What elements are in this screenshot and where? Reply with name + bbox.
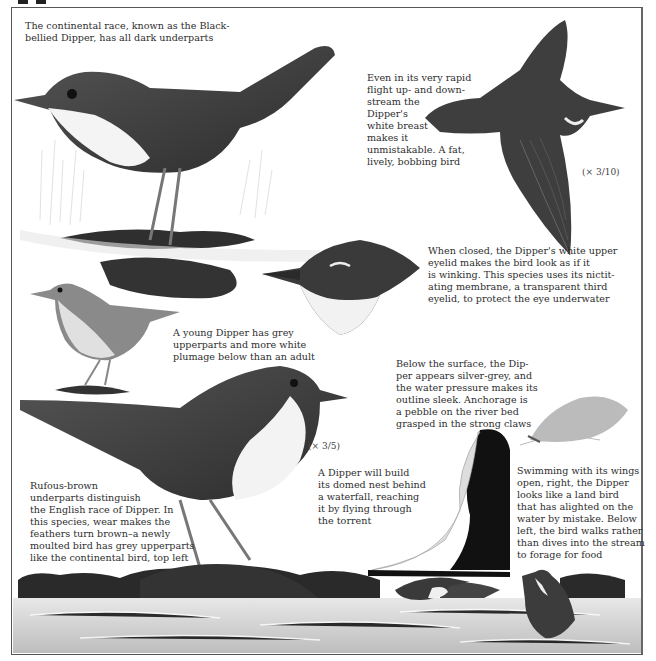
caption-line: grasped in the strong claws [396, 418, 546, 430]
caption-line: this species, wear makes the [30, 516, 195, 528]
caption-line: water by mistake. Below [517, 513, 647, 525]
black-bellied-dipper-illustration [14, 46, 335, 298]
caption-young-dipper: A young Dipper has grey upperparts and m… [173, 327, 323, 363]
caption-line: underparts distinguish [30, 492, 195, 504]
caption-line: Below the surface, the Dip- [396, 358, 546, 370]
caption-line: the water pressure makes its [396, 382, 546, 394]
caption-line: The continental race, known as the Black… [25, 20, 255, 32]
caption-flight: Even in its very rapid flight up- and do… [367, 72, 477, 168]
caption-underwater: Below the surface, the Dip- per appears … [396, 358, 546, 430]
caption-line: a waterfall, reaching [318, 491, 438, 503]
caption-line: lively, bobbing bird [367, 156, 477, 168]
caption-line: like the continental bird, top left [30, 552, 195, 564]
caption-continental-race: The continental race, known as the Black… [25, 20, 255, 44]
caption-waterfall-nest: A Dipper will build its domed nest behin… [318, 467, 438, 527]
caption-line: outline sleek. Anchorage is [396, 394, 546, 406]
caption-line: When closed, the Dipper's white upper [428, 245, 648, 257]
caption-line: makes it [367, 132, 477, 144]
caption-line: eyelid makes the bird look as if it [428, 257, 648, 269]
caption-line: plumage below than an adult [173, 351, 323, 363]
caption-line: its domed nest behind [318, 479, 438, 491]
caption-line: Rufous-brown [30, 480, 195, 492]
caption-line: open, right, the Dipper [517, 477, 647, 489]
caption-line: Swimming with its wings [517, 465, 647, 477]
caption-line: bellied Dipper, has all dark underparts [25, 32, 255, 44]
caption-line: per appears silver-grey, and [396, 370, 546, 382]
caption-line: unmistakable. A fat, [367, 144, 477, 156]
caption-line: moulted bird has grey upperparts [30, 540, 195, 552]
scale-label-main: (× 3/5) [308, 441, 340, 451]
caption-line: upperparts and more white [173, 339, 323, 351]
caption-line: the torrent [318, 515, 438, 527]
caption-line: that has alighted on the [517, 501, 647, 513]
caption-line: A Dipper will build [318, 467, 438, 479]
caption-line: white breast [367, 120, 477, 132]
caption-line: is winking. This species uses its nictit… [428, 269, 648, 281]
caption-line: left, the bird walks rather [517, 525, 647, 537]
caption-line: stream the [367, 96, 477, 108]
caption-line: to forage for food [517, 549, 647, 561]
caption-line: ating membrane, a transparent third [428, 281, 648, 293]
scale-label-flight: (× 3/10) [582, 167, 620, 177]
caption-line: flight up- and down- [367, 84, 477, 96]
caption-swimming: Swimming with its wings open, right, the… [517, 465, 647, 561]
caption-line: eyelid, to protect the eye underwater [428, 293, 648, 305]
caption-line: the English race of Dipper. In [30, 504, 195, 516]
caption-eyelid: When closed, the Dipper's white upper ey… [428, 245, 648, 305]
young-dipper-illustration [30, 284, 180, 395]
caption-line: A young Dipper has grey [173, 327, 323, 339]
caption-line: feathers turn brown–a newly [30, 528, 195, 540]
caption-line: it by flying through [318, 503, 438, 515]
caption-line: a pebble on the river bed [396, 406, 546, 418]
caption-line: Dipper's [367, 108, 477, 120]
caption-line: Even in its very rapid [367, 72, 477, 84]
caption-line: looks like a land bird [517, 489, 647, 501]
caption-english-race: Rufous-brown underparts distinguish the … [30, 480, 195, 564]
caption-line: than dives into the stream [517, 537, 647, 549]
